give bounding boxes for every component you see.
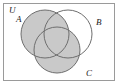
set-label-a: A xyxy=(15,14,22,24)
venn-diagram-figure: U A B C xyxy=(0,0,119,84)
venn-diagram-canvas: U A B C xyxy=(0,0,119,84)
set-label-c: C xyxy=(86,68,93,78)
universe-label: U xyxy=(9,5,16,15)
set-label-b: B xyxy=(96,17,102,27)
